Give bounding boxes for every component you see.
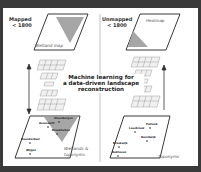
toponym-left-4: Hoenderdaal [21,138,40,141]
left-title-line2: < 1800 [12,23,32,29]
right-up-arrow [162,65,166,110]
center-caption-line3: reconstruction [58,86,144,92]
right-title-line2: < 1800 [107,23,127,29]
wetlands-toponyms-label-line2: toponyms [64,152,85,158]
toponym-left-3: Broekhuizen [52,129,70,132]
toponym-right-2: Leusbroek [129,127,144,130]
wetland-map-label: Wetland map [35,43,63,49]
toponym-left-2: Assendelft [39,122,55,125]
toponym-left-1: Steenbergen [54,117,73,120]
toponym-right-4: Broekwijk [113,142,127,145]
center-caption: Machine learning for a data-driven lands… [58,74,144,93]
left-double-arrow [27,64,31,114]
wetlands-toponyms-label-line1: Wetlands & [64,146,88,152]
toponym-right-1: Putland [146,123,157,126]
toponyms-label: Toponyms [158,154,179,160]
heatmap-label: Heatmap [146,18,164,24]
toponym-left-5: Wijgen [26,149,36,152]
toponym-right-3: Noordwijk [141,136,156,139]
toponym-right-5: Bokhoven [112,151,126,154]
